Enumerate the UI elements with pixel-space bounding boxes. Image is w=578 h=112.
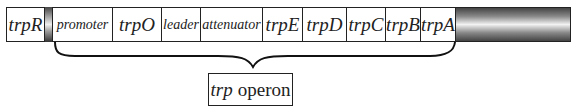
operon-label: trp operon [208,73,293,106]
operon-gene-name: trp [211,79,233,101]
operon-word: operon [238,79,291,101]
